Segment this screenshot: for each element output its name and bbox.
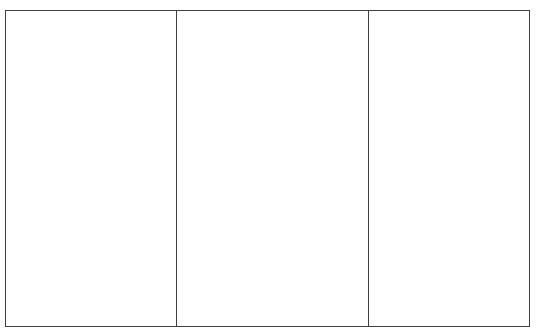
table-cell-column-3[interactable] [369,11,529,326]
page-root [0,0,539,336]
table-cell-column-1[interactable] [6,11,177,326]
table-row [6,11,529,326]
empty-three-column-table [5,10,530,327]
table-cell-column-2[interactable] [177,11,369,326]
